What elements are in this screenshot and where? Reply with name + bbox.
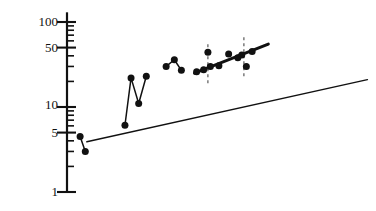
- plot-area: [0, 0, 376, 211]
- data-point-zigzag-series-3: [135, 100, 142, 107]
- data-point-main-cluster-5: [215, 62, 222, 69]
- data-point-main-cluster-2: [200, 66, 207, 73]
- series-peak-series: [163, 56, 185, 74]
- data-point-main-cluster-9: [243, 63, 250, 70]
- data-series: [77, 48, 256, 155]
- data-point-main-cluster-4: [207, 63, 214, 70]
- data-point-peak-series-3: [178, 67, 185, 74]
- data-point-main-cluster-10: [249, 48, 256, 55]
- data-point-zigzag-series-2: [128, 74, 135, 81]
- series-zigzag-series: [121, 73, 149, 129]
- data-point-peak-series-2: [171, 56, 178, 63]
- data-point-main-cluster-6: [225, 51, 232, 58]
- data-point-main-cluster-8: [238, 51, 245, 58]
- series-line-zigzag-series: [125, 76, 146, 125]
- data-point-zigzag-series-4: [143, 73, 150, 80]
- data-point-near-axis-pair-1: [77, 133, 84, 140]
- data-point-peak-series-1: [163, 63, 170, 70]
- y-axis: [57, 12, 76, 192]
- chart-figure: 100 50 10 5 1: [0, 0, 376, 211]
- data-point-main-cluster-1: [193, 68, 200, 75]
- data-point-main-cluster-3: [204, 49, 211, 56]
- data-point-zigzag-series-1: [121, 122, 128, 129]
- series-near-axis-pair: [77, 133, 89, 155]
- data-point-near-axis-pair-2: [82, 148, 89, 155]
